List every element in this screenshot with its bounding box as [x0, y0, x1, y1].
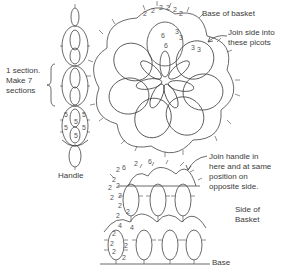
join-handle-note: Join handle in here and at same position… — [209, 152, 271, 192]
svg-text:6: 6 — [148, 158, 152, 165]
side-of-basket-label: Side of Basket — [235, 205, 260, 225]
base-rosette: 2 2 2 2 2 2 6 6 3 3 3 3 — [86, 1, 240, 157]
svg-text:2: 2 — [124, 242, 128, 249]
svg-text:3: 3 — [197, 46, 201, 53]
svg-text:6: 6 — [164, 42, 168, 49]
svg-text:4: 4 — [130, 224, 134, 231]
svg-text:2: 2 — [134, 160, 138, 167]
svg-text:3: 3 — [191, 44, 195, 51]
svg-text:3: 3 — [179, 34, 183, 41]
svg-text:5: 5 — [64, 124, 68, 131]
svg-text:2: 2 — [108, 184, 112, 191]
svg-text:5: 5 — [74, 132, 78, 139]
join-side-note: Join side into these picots — [228, 28, 275, 48]
svg-text:2: 2 — [118, 192, 122, 199]
svg-text:2: 2 — [159, 4, 163, 11]
svg-text:2: 2 — [173, 6, 177, 13]
svg-text:4: 4 — [118, 222, 122, 229]
svg-text:2: 2 — [126, 208, 130, 215]
svg-text:2: 2 — [118, 202, 122, 209]
svg-text:6: 6 — [161, 32, 165, 39]
svg-text:2: 2 — [166, 4, 170, 11]
svg-text:6: 6 — [122, 164, 126, 171]
svg-text:2: 2 — [179, 10, 183, 17]
svg-text:2: 2 — [122, 254, 126, 261]
section-label: 1 section. Make 7 sections — [6, 66, 40, 96]
svg-text:2: 2 — [110, 194, 114, 201]
svg-text:5: 5 — [82, 124, 86, 131]
svg-text:2: 2 — [112, 230, 116, 237]
join-handle-arrow — [188, 156, 207, 170]
handle-label: Handle — [58, 171, 83, 181]
base-label: Base — [212, 258, 230, 268]
svg-text:2: 2 — [116, 182, 120, 189]
svg-text:5: 5 — [74, 118, 78, 125]
base-of-basket-title: Base of basket — [202, 9, 255, 19]
svg-text:2: 2 — [116, 166, 120, 173]
svg-text:2: 2 — [116, 212, 120, 219]
svg-text:5: 5 — [82, 111, 86, 118]
svg-text:2: 2 — [110, 240, 114, 247]
handle-drawing: 5 5 5 5 5 5 — [47, 4, 90, 170]
svg-text:2: 2 — [112, 248, 116, 255]
svg-text:2: 2 — [143, 10, 147, 17]
side-drawing: 2 6 2 6 2 2 2 2 2 2 2 2 4 4 2 2 2 2 2 — [100, 158, 210, 264]
svg-text:2: 2 — [151, 7, 155, 14]
svg-text:5: 5 — [64, 111, 68, 118]
